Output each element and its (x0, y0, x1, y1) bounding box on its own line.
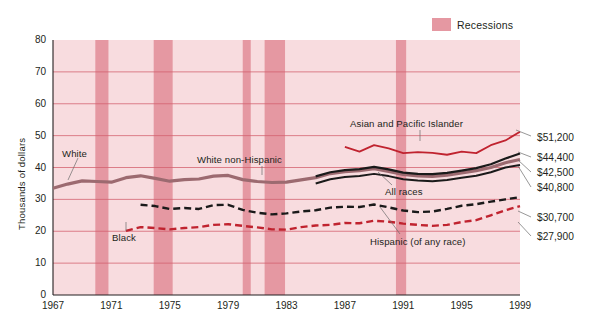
series-label-white: White (62, 148, 87, 159)
series-label-hispanic: Hispanic (of any race) (370, 236, 466, 247)
value-label-all-races: $40,800 (537, 182, 574, 193)
plot-area (0, 0, 595, 328)
series-label-asian: Asian and Pacific Islander (350, 118, 463, 129)
series-label-all-races: All races (385, 186, 423, 197)
series-label-black: Black (112, 232, 136, 243)
value-label-black: $30,700 (537, 212, 574, 223)
value-label-hispanic: $27,900 (537, 231, 574, 242)
value-label-white: $42,500 (537, 167, 574, 178)
series-label-white-non-hispanic: White non-Hispanic (197, 154, 282, 165)
value-label-asian: $51,200 (537, 132, 574, 143)
chart-figure: Recessions Thousands of dollars 01020304… (0, 0, 595, 328)
value-label-white-non-hispanic: $44,400 (537, 152, 574, 163)
